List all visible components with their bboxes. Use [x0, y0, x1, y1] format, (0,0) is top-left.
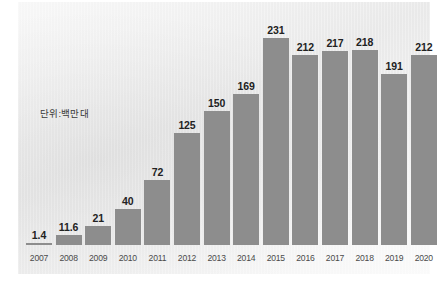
bar-value-label: 125: [172, 119, 202, 131]
bar-value-label: 169: [231, 80, 261, 92]
x-axis-tick-label: 2015: [260, 253, 292, 263]
bar-rect[interactable]: [144, 180, 170, 245]
bar-value-label: 72: [142, 166, 172, 178]
bottom-white-strip: [0, 277, 447, 291]
bars-layer: 1.4200711.620082120094020107220111252012…: [0, 0, 447, 291]
bar-group[interactable]: 722011: [142, 0, 172, 291]
bar-rect[interactable]: [26, 243, 52, 245]
x-axis-tick-label: 2014: [230, 253, 262, 263]
bar-chart-figure: 단위:백만대 1.4200711.62008212009402010722011…: [0, 0, 447, 291]
bar-rect[interactable]: [411, 55, 437, 245]
bar-rect[interactable]: [85, 226, 111, 245]
bar-group[interactable]: 2182018: [350, 0, 380, 291]
bar-value-label: 40: [113, 195, 143, 207]
x-axis-tick-label: 2016: [289, 253, 321, 263]
x-axis-tick-label: 2009: [82, 253, 114, 263]
bar-rect[interactable]: [352, 50, 378, 245]
bar-rect[interactable]: [292, 55, 318, 245]
bar-value-label: 212: [290, 41, 320, 53]
x-axis-tick-label: 2012: [171, 253, 203, 263]
bar-value-label: 150: [202, 97, 232, 109]
x-axis-tick-label: 2007: [23, 253, 55, 263]
x-axis-tick-label: 2018: [349, 253, 381, 263]
bar-rect[interactable]: [56, 235, 82, 245]
bar-value-label: 231: [261, 24, 291, 36]
bar-value-label: 1.4: [24, 229, 54, 241]
bar-group[interactable]: 212009: [83, 0, 113, 291]
bar-value-label: 218: [350, 36, 380, 48]
x-axis-tick-label: 2019: [378, 253, 410, 263]
bar-group[interactable]: 1.42007: [24, 0, 54, 291]
bar-group[interactable]: 2172017: [320, 0, 350, 291]
bar-value-label: 212: [409, 41, 439, 53]
bar-value-label: 21: [83, 212, 113, 224]
x-axis-tick-label: 2008: [53, 253, 85, 263]
bar-group[interactable]: 11.62008: [54, 0, 84, 291]
bar-group[interactable]: 402010: [113, 0, 143, 291]
bar-value-label: 11.6: [54, 221, 84, 233]
x-axis-tick-label: 2011: [141, 253, 173, 263]
bar-rect[interactable]: [174, 133, 200, 245]
bar-rect[interactable]: [115, 209, 141, 245]
bar-rect[interactable]: [204, 111, 230, 245]
bar-group[interactable]: 2122020: [409, 0, 439, 291]
bar-rect[interactable]: [381, 74, 407, 245]
x-axis-tick-label: 2013: [201, 253, 233, 263]
bar-group[interactable]: 1252012: [172, 0, 202, 291]
bar-value-label: 217: [320, 37, 350, 49]
bar-value-label: 191: [379, 60, 409, 72]
bar-group[interactable]: 1502013: [202, 0, 232, 291]
bar-rect[interactable]: [263, 38, 289, 245]
bar-group[interactable]: 1912019: [379, 0, 409, 291]
x-axis-tick-label: 2010: [112, 253, 144, 263]
bar-group[interactable]: 2122016: [290, 0, 320, 291]
bar-group[interactable]: 2312015: [261, 0, 291, 291]
x-axis-tick-label: 2017: [319, 253, 351, 263]
x-axis-tick-label: 2020: [408, 253, 440, 263]
bar-rect[interactable]: [322, 51, 348, 245]
bar-rect[interactable]: [233, 94, 259, 245]
bar-group[interactable]: 1692014: [231, 0, 261, 291]
